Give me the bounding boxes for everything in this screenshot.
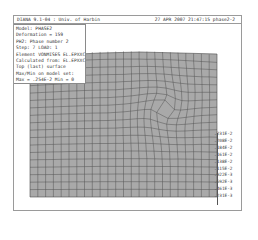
scale-label: .461E-3 bbox=[214, 186, 254, 193]
scale-label: .231E-3 bbox=[214, 193, 254, 200]
scale-label: .161E-2 bbox=[214, 152, 254, 159]
scale-label: .184E-2 bbox=[214, 145, 254, 152]
model-info-legend: Model: PHASE2 Deformation = 159 PH2: Pha… bbox=[14, 24, 86, 84]
scale-label: .922E-3 bbox=[214, 172, 254, 179]
scale-label: .138E-2 bbox=[214, 159, 254, 166]
scale-label: .231E-2 bbox=[214, 131, 254, 138]
scale-label: .115E-2 bbox=[214, 166, 254, 173]
legend-line-maxmin-values: Max = .254E-2 Min = 0 bbox=[16, 77, 85, 83]
scale-label: .208E-2 bbox=[214, 138, 254, 145]
color-scale-legend: .231E-2 .208E-2 .184E-2 .161E-2 .138E-2 … bbox=[214, 131, 254, 200]
scale-bar bbox=[217, 133, 218, 205]
scale-label: .692E-3 bbox=[214, 179, 254, 186]
